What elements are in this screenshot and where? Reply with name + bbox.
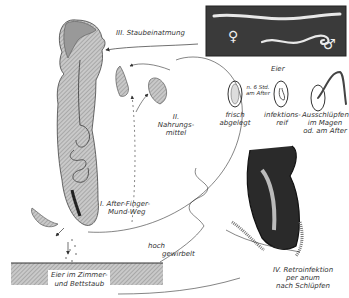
label-egg-hatching-3: od. am After (302, 127, 348, 135)
arrow-route-3 (106, 44, 198, 50)
label-route-1-line1: I. After-Finger- (100, 200, 150, 208)
lower-hand-icon (31, 208, 58, 227)
label-egg-infective: infektions- reif (264, 111, 300, 127)
arrow-route-2 (130, 64, 170, 70)
label-route-1-line2: Mund-Weg (100, 208, 150, 216)
label-route-2-line1: Nahrungs- (156, 121, 196, 129)
label-floor-2: und Bettstaub (51, 280, 107, 289)
male-symbol-icon: ♂ (323, 36, 336, 52)
food-hand-icon (148, 78, 166, 104)
female-symbol-icon: ♀ (228, 28, 238, 44)
label-egg-infective-1: infektions- (264, 111, 300, 119)
body-outline (57, 20, 105, 226)
pinworm-infection-diagram: ♀ ♂ III. Staubeinatmung II. Nahrungs- mi… (0, 0, 349, 298)
anal-region-illustration (226, 146, 302, 256)
label-eggs-title: Eier (271, 65, 285, 73)
label-dust-whirled: hoch gewirbelt (148, 242, 195, 258)
label-egg-hatching-1: Ausschlüpfen (302, 111, 348, 119)
human-figure (57, 20, 105, 226)
label-floor-dust: Eier im Zimmer- und Bettstaub (48, 270, 110, 290)
label-egg-hatching: Ausschlüpfen im Magen od. am After (302, 111, 348, 135)
hand-icon (116, 66, 129, 96)
label-route-4-line3: nach Schlüpfen (268, 282, 338, 290)
label-egg-fresh-2: abgelegt (218, 119, 252, 127)
label-dust-1: hoch (148, 242, 195, 250)
falling-eggs (65, 239, 76, 261)
arrow-food (136, 94, 148, 112)
arrow-to-hand (56, 228, 64, 236)
label-route-4-line2: per anum (268, 274, 338, 282)
label-egg-interval-2: am After (244, 90, 272, 96)
label-route-2-line2: mittel (156, 129, 196, 137)
label-route-4: IV. Retroinfektion per anum nach Schlüpf… (268, 266, 338, 290)
egg-infective (274, 81, 288, 107)
label-route-3: III. Staubeinatmung (116, 29, 185, 37)
label-route-4-line1: IV. Retroinfektion (268, 266, 338, 274)
label-egg-interval: n. 6 Std. am After (244, 84, 272, 96)
label-route-2-num: II. (156, 113, 196, 121)
label-egg-fresh-1: frisch (218, 111, 252, 119)
label-egg-hatching-2: im Magen (302, 119, 348, 127)
label-route-2: II. Nahrungs- mittel (156, 113, 196, 137)
label-egg-infective-2: reif (264, 119, 300, 127)
label-floor-1: Eier im Zimmer- (51, 271, 107, 280)
label-route-1: I. After-Finger- Mund-Weg (100, 200, 150, 216)
label-egg-fresh: frisch abgelegt (218, 111, 252, 127)
label-dust-2: gewirbelt (148, 250, 195, 258)
